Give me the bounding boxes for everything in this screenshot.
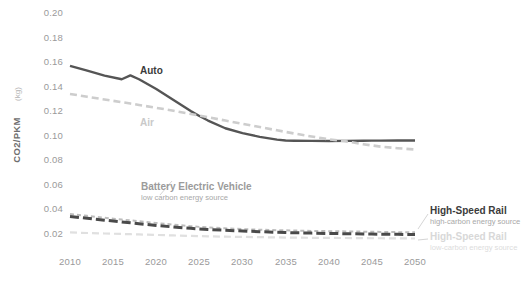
y-tick-label: 0.08 xyxy=(44,154,63,165)
y-axis-title-unit: (kg) xyxy=(13,87,22,101)
x-tick-label: 2030 xyxy=(231,256,253,267)
annotation-auto-title: Auto xyxy=(140,65,163,76)
y-axis-title-main: CO2/PKM xyxy=(11,117,22,162)
x-axis-ticks: 2010 2015 2020 2025 2030 2035 2040 2045 … xyxy=(59,256,426,267)
y-tick-label: 0.16 xyxy=(44,56,63,67)
y-tick-label: 0.12 xyxy=(44,105,63,116)
annotation-hsr-low-subtitle: low-carbon energy source xyxy=(430,243,517,252)
hsr-high-leader-line xyxy=(418,214,428,229)
annotation-bev-title: Battery Electric Vehicle xyxy=(141,181,252,192)
x-tick-label: 2040 xyxy=(318,256,340,267)
annotation-air-title: Air xyxy=(140,117,154,128)
annotation-hsr-low-title: High-Speed Rail xyxy=(430,231,507,242)
hsr-low-leader-line xyxy=(418,239,428,240)
chart-plot-area: 0.20 0.18 0.16 0.14 0.12 0.10 0.08 0.06 … xyxy=(0,0,531,282)
y-axis-title: CO2/PKM (kg) xyxy=(11,87,22,163)
x-tick-label: 2020 xyxy=(145,256,167,267)
y-tick-label: 0.20 xyxy=(44,7,63,18)
y-axis-ticks: 0.20 0.18 0.16 0.14 0.12 0.10 0.08 0.06 … xyxy=(44,7,63,239)
y-tick-label: 0.02 xyxy=(44,228,63,239)
series-line xyxy=(70,66,415,141)
annotation-bev-subtitle: low carbon energy source xyxy=(141,193,228,202)
x-tick-label: 2050 xyxy=(404,256,426,267)
chart-container: 0.20 0.18 0.16 0.14 0.12 0.10 0.08 0.06 … xyxy=(0,0,531,282)
y-tick-label: 0.10 xyxy=(44,130,63,141)
y-tick-label: 0.04 xyxy=(44,203,63,214)
y-tick-label: 0.18 xyxy=(44,32,63,43)
annotation-hsr-high-title: High-Speed Rail xyxy=(430,205,507,216)
x-tick-label: 2035 xyxy=(275,256,297,267)
x-tick-label: 2025 xyxy=(188,256,210,267)
y-tick-label: 0.06 xyxy=(44,179,63,190)
y-tick-label: 0.14 xyxy=(44,81,63,92)
x-tick-label: 2045 xyxy=(361,256,383,267)
data-series-layer xyxy=(70,66,415,239)
x-tick-label: 2010 xyxy=(59,256,81,267)
x-tick-label: 2015 xyxy=(102,256,124,267)
annotation-hsr-high-subtitle: high-carbon energy source xyxy=(430,217,520,226)
